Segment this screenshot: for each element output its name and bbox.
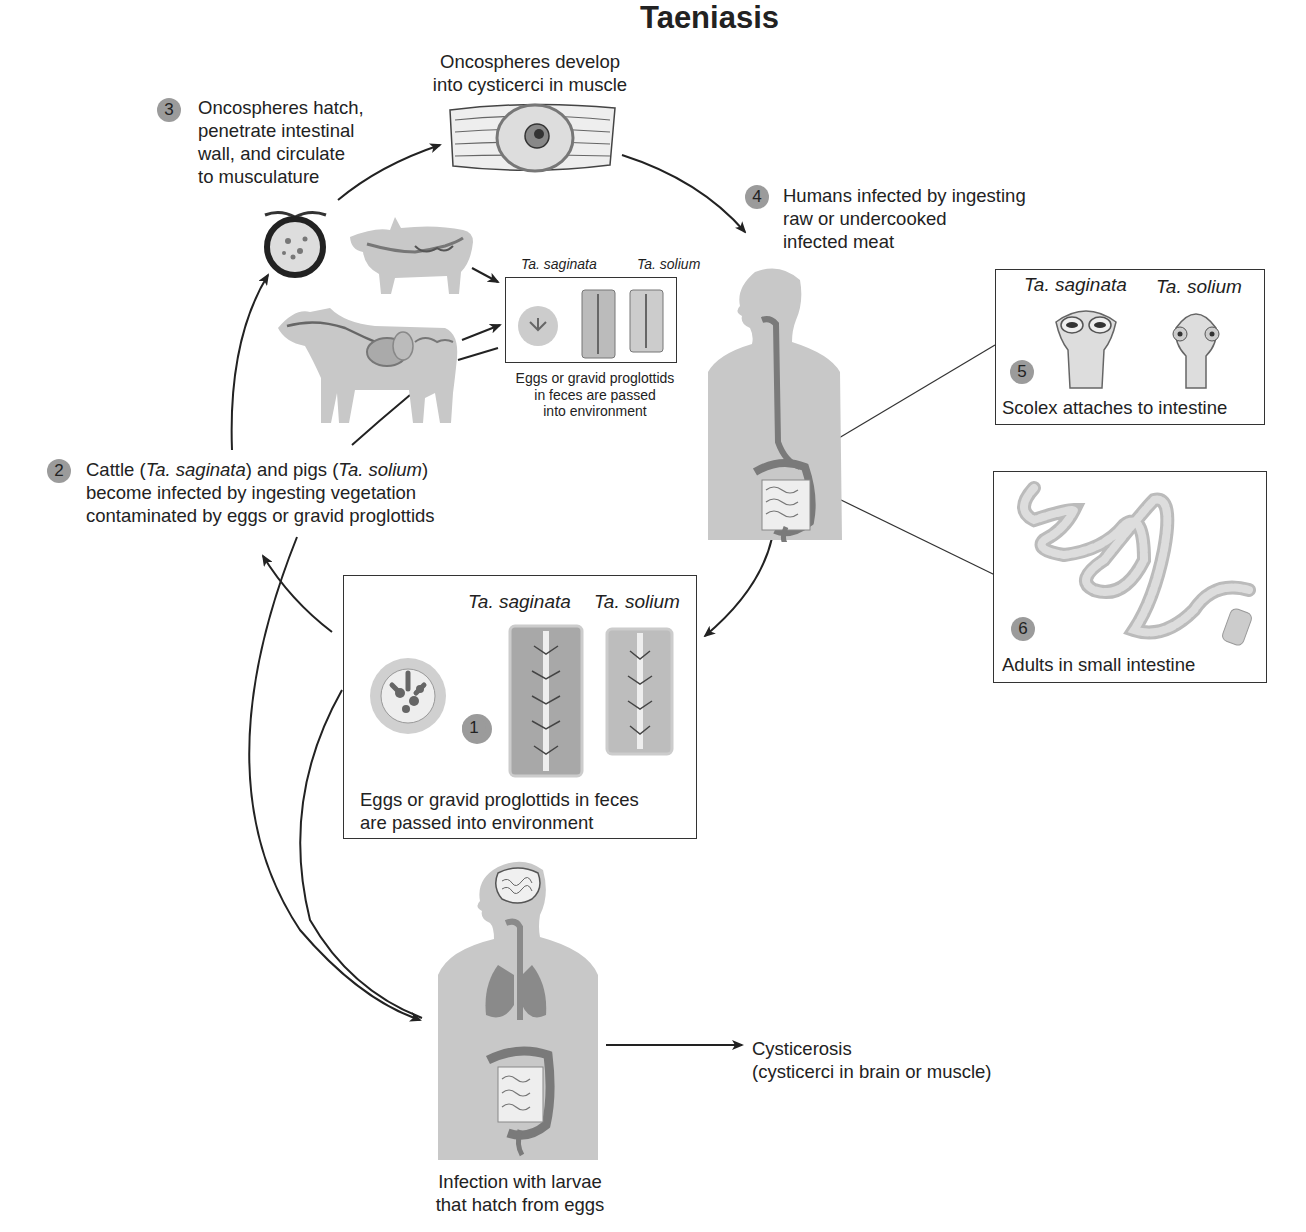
step-1-badge: 1 [462, 716, 486, 740]
step-2-line2: become infected by ingesting vegetation [86, 481, 435, 504]
cow-illustration [275, 298, 465, 428]
step-2-text-a: Cattle ( [86, 459, 146, 480]
animal-box-caption-line3: into environment [490, 403, 700, 420]
pig-illustration [345, 212, 480, 302]
step-2: 2 Cattle (Ta. saginata) and pigs (Ta. so… [47, 458, 435, 527]
step-3-line1: Oncospheres hatch, [198, 96, 364, 119]
step-2-text-c: ) and pigs ( [246, 459, 339, 480]
step-4-line2: raw or undercooked [783, 207, 1026, 230]
step-3: 3 Oncospheres hatch, penetrate intestina… [157, 96, 364, 188]
muscle-label-line2: into cysticerci in muscle [415, 73, 645, 96]
animal-box-illustration [506, 278, 676, 362]
step-3-line4: to musculature [198, 165, 364, 188]
arrow-human-to-box1 [705, 538, 772, 636]
scolex-illustration [1046, 300, 1256, 390]
step-3-badge: 3 [157, 98, 181, 122]
animal-box-caption-line1: Eggs or gravid proglottids [490, 370, 700, 387]
adults-box: 6 Adults in small intestine [993, 471, 1267, 683]
cysticerosis-label: Cysticerosis (cysticerci in brain or mus… [752, 1037, 992, 1083]
animal-feces-box [505, 277, 677, 363]
step-2-badge: 2 [47, 459, 71, 483]
human-digestive-illustration [700, 262, 850, 542]
step-2-text-e: ) [422, 459, 428, 480]
animal-box-caption: Eggs or gravid proglottids in feces are … [490, 370, 700, 420]
feces-caption-line1: Eggs or gravid proglottids in feces [360, 788, 639, 811]
adult-tapeworm-illustration [1004, 480, 1259, 650]
egg-and-proglottid-illustration [362, 621, 692, 781]
adults-caption: Adults in small intestine [1002, 653, 1195, 676]
larvae-label-line2: that hatch from eggs [400, 1193, 640, 1216]
feces-species-saginata: Ta. saginata [468, 590, 571, 613]
cysticerosis-detail: (cysticerci in brain or muscle) [752, 1060, 992, 1083]
human-cysticercosis-illustration [428, 855, 608, 1165]
step-3-line3: wall, and circulate [198, 142, 364, 165]
arrow-to-oncosphere [232, 275, 268, 450]
step-5-badge: 5 [1010, 360, 1034, 384]
step-3-line2: penetrate intestinal [198, 119, 364, 142]
step-2-line3: contaminated by eggs or gravid proglotti… [86, 504, 435, 527]
larvae-label-line1: Infection with larvae [400, 1170, 640, 1193]
animal-box-species-saginata: Ta. saginata [521, 256, 597, 272]
step-4: 4 Humans infected by ingesting raw or un… [745, 184, 1026, 253]
muscle-label-line1: Oncospheres develop [415, 50, 645, 73]
feces-box: Ta. saginata Ta. solium 1 Eggs or gravid… [343, 575, 697, 839]
scolex-species-solium: Ta. solium [1156, 276, 1242, 298]
step-4-line3: infected meat [783, 230, 1026, 253]
feces-species-solium: Ta. solium [594, 590, 680, 613]
scolex-box: Ta. saginata Ta. solium 5 Scolex attache… [995, 269, 1265, 425]
animal-box-caption-line2: in feces are passed [490, 387, 700, 404]
oncosphere-illustration [260, 205, 332, 280]
feces-caption-line2: are passed into environment [360, 811, 639, 834]
step-6-badge: 6 [1011, 617, 1035, 641]
arrow-box1-to-2 [263, 556, 332, 632]
muscle-cysticercus-illustration [445, 100, 620, 175]
step-2-species-solium: Ta. solium [338, 459, 422, 480]
feces-caption: Eggs or gravid proglottids in feces are … [360, 788, 639, 834]
muscle-label: Oncospheres develop into cysticerci in m… [415, 50, 645, 96]
arrow-cow-to-box [462, 325, 500, 340]
scolex-species-saginata: Ta. saginata [1024, 274, 1127, 296]
larvae-label: Infection with larvae that hatch from eg… [400, 1170, 640, 1216]
arrow-to-human [622, 155, 745, 232]
step-4-line1: Humans infected by ingesting [783, 184, 1026, 207]
scolex-caption: Scolex attaches to intestine [1002, 396, 1227, 419]
step-4-badge: 4 [745, 185, 769, 209]
step-2-species-saginata: Ta. saginata [146, 459, 246, 480]
cysticerosis-title: Cysticerosis [752, 1037, 992, 1060]
step-2-line1: Cattle (Ta. saginata) and pigs (Ta. soli… [86, 458, 435, 481]
animal-box-species-solium: Ta. solium [637, 256, 700, 272]
